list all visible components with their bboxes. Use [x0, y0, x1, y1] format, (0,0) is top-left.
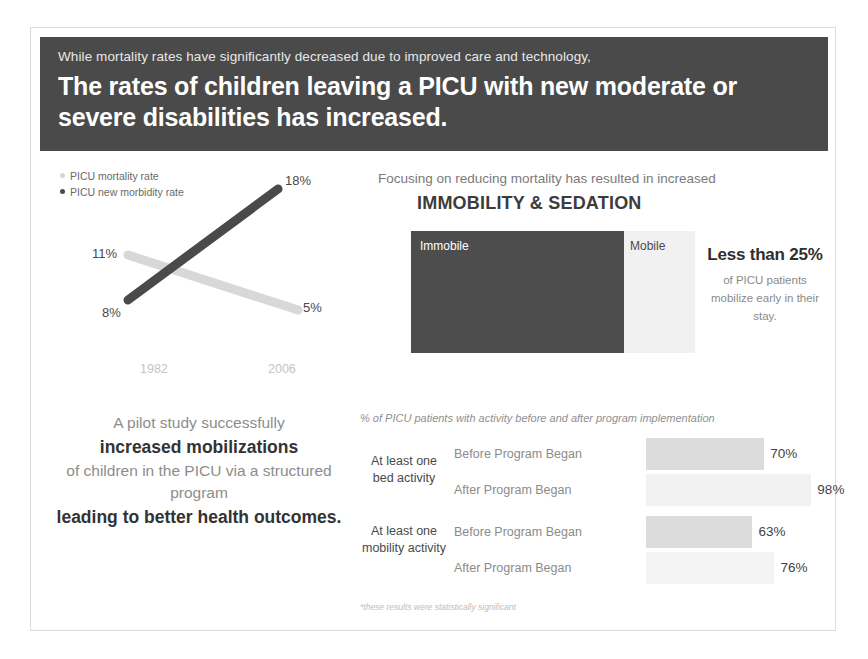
callout-headline: Less than 25%	[702, 245, 828, 265]
bar-fill	[646, 552, 774, 584]
pilot-study-text: A pilot study successfully increased mob…	[40, 412, 358, 530]
bar-value: 70%	[770, 446, 797, 461]
slope-value-mortality-start: 11%	[92, 246, 117, 261]
activity-bar-table: % of PICU patients with activity before …	[358, 402, 828, 623]
bar-value: 63%	[759, 524, 786, 539]
row-label: After Program Began	[454, 483, 571, 497]
group-label-mobility-activity: At least one mobility activity	[360, 523, 448, 557]
row-label: After Program Began	[454, 561, 571, 575]
callout-subtext: of PICU patients mobilize early in their…	[702, 272, 828, 325]
bar-value: 76%	[780, 560, 807, 575]
table-row: Before Program Began 63%	[454, 516, 828, 550]
bar-fill	[646, 438, 764, 470]
axis-tick-2006: 2006	[268, 362, 296, 376]
bar-segment-immobile-label: Immobile	[420, 239, 469, 253]
middle-section: PICU mortality rate PICU new morbidity r…	[40, 157, 828, 402]
pilot-line-3: of children in the PICU via a structured…	[66, 462, 331, 502]
immobility-panel: Focusing on reducing mortality has resul…	[362, 157, 828, 402]
slope-value-morbidity-end: 18%	[285, 173, 311, 188]
slope-chart-lines	[40, 157, 362, 402]
headline-kicker: While mortality rates have significantly…	[58, 48, 810, 66]
table-row: Before Program Began 70%	[454, 438, 828, 472]
slope-value-mortality-end: 5%	[303, 300, 322, 315]
mobilization-callout: Less than 25% of PICU patients mobilize …	[702, 245, 828, 325]
group-label-bed-activity: At least one bed activity	[360, 453, 448, 487]
infographic-card: While mortality rates have significantly…	[30, 27, 836, 631]
bottom-section: A pilot study successfully increased mob…	[40, 402, 828, 623]
headline-banner: While mortality rates have significantly…	[40, 37, 828, 151]
bar-track: 76%	[646, 552, 814, 584]
pilot-line-4: leading to better health outcomes	[57, 507, 337, 527]
bar-segment-immobile: Immobile	[411, 231, 624, 353]
row-label: Before Program Began	[454, 447, 582, 461]
pilot-line-4-period: .	[337, 507, 342, 527]
slope-value-morbidity-start: 8%	[102, 305, 121, 320]
pilot-line-1: A pilot study successfully	[113, 414, 284, 431]
bar-track: 98%	[646, 474, 814, 506]
slope-chart: PICU mortality rate PICU new morbidity r…	[40, 157, 362, 402]
bar-track: 70%	[646, 438, 814, 470]
page-title: The rates of children leaving a PICU wit…	[58, 71, 810, 134]
bar-fill	[646, 474, 811, 506]
table-title: % of PICU patients with activity before …	[360, 412, 715, 424]
immobility-title: IMMOBILITY & SEDATION	[417, 193, 642, 214]
table-row: After Program Began 76%	[454, 552, 828, 586]
immobility-stacked-bar: Immobile Mobile	[411, 231, 695, 353]
axis-tick-1982: 1982	[140, 362, 168, 376]
bar-segment-mobile-label: Mobile	[630, 239, 665, 253]
bar-value: 98%	[817, 482, 844, 497]
bar-track: 63%	[646, 516, 814, 548]
table-row: After Program Began 98%	[454, 474, 828, 508]
pilot-line-2: increased mobilizations	[100, 437, 298, 457]
immobility-kicker: Focusing on reducing mortality has resul…	[378, 171, 716, 186]
row-label: Before Program Began	[454, 525, 582, 539]
bar-segment-mobile: Mobile	[624, 231, 695, 353]
table-footnote: *these results were statistically signif…	[360, 602, 516, 612]
bar-fill	[646, 516, 752, 548]
